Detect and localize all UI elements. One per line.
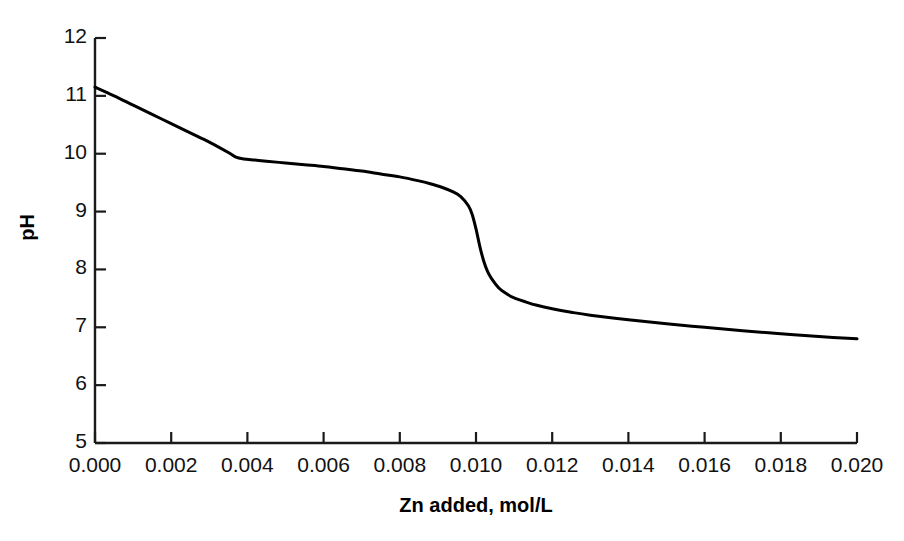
x-axis-ticks bbox=[95, 432, 857, 443]
x-tick-label: 0.012 bbox=[512, 453, 592, 477]
x-tick-label: 0.010 bbox=[436, 453, 516, 477]
series-line bbox=[95, 87, 857, 339]
y-axis-title: pH bbox=[16, 214, 39, 241]
x-tick-label: 0.008 bbox=[360, 453, 440, 477]
y-axis-ticks bbox=[95, 38, 106, 443]
y-tick-label: 9 bbox=[41, 198, 87, 222]
y-tick-label: 12 bbox=[41, 24, 87, 48]
y-tick-label: 11 bbox=[41, 82, 87, 106]
x-axis-title-wrap: Zn added, mol/L bbox=[0, 494, 904, 517]
x-tick-label: 0.018 bbox=[741, 453, 821, 477]
x-tick-label: 0.004 bbox=[207, 453, 287, 477]
x-tick-label: 0.006 bbox=[284, 453, 364, 477]
x-tick-label: 0.016 bbox=[665, 453, 745, 477]
x-tick-label: 0.020 bbox=[817, 453, 897, 477]
y-tick-label: 8 bbox=[41, 255, 87, 279]
y-tick-label: 5 bbox=[41, 429, 87, 453]
x-tick-label: 0.000 bbox=[55, 453, 135, 477]
x-tick-label: 0.002 bbox=[131, 453, 211, 477]
chart-figure: 56789101112 0.0000.0020.0040.0060.0080.0… bbox=[0, 0, 904, 541]
y-tick-label: 10 bbox=[41, 140, 87, 164]
axis-lines bbox=[95, 38, 857, 443]
x-axis-title: Zn added, mol/L bbox=[399, 494, 552, 517]
y-tick-label: 6 bbox=[41, 371, 87, 395]
x-tick-label: 0.014 bbox=[588, 453, 668, 477]
data-series-group bbox=[95, 87, 857, 339]
y-tick-label: 7 bbox=[41, 313, 87, 337]
